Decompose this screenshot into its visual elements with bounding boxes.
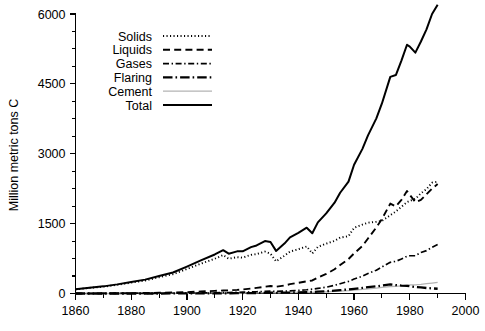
legend-label-gases: Gases bbox=[116, 57, 152, 71]
legend-label-solids: Solids bbox=[118, 30, 152, 44]
x-tick-label: 1940 bbox=[284, 304, 312, 318]
x-tick-label: 1860 bbox=[62, 304, 90, 318]
legend-label-total: Total bbox=[126, 99, 152, 113]
y-tick-label: 6000 bbox=[38, 8, 66, 22]
y-tick-label: 3000 bbox=[38, 147, 66, 161]
y-tick-label: 0 bbox=[59, 287, 66, 301]
y-tick-label: 4500 bbox=[38, 77, 66, 91]
x-tick-label: 1880 bbox=[117, 304, 145, 318]
x-tick-label: 1960 bbox=[340, 304, 368, 318]
x-tick-label: 1920 bbox=[229, 304, 257, 318]
emissions-line-chart: 0150030004500600018601880190019201940196… bbox=[0, 0, 485, 331]
x-tick-label: 2000 bbox=[452, 304, 480, 318]
x-tick-label: 1900 bbox=[173, 304, 201, 318]
y-tick-label: 1500 bbox=[38, 217, 66, 231]
legend-label-liquids: Liquids bbox=[112, 43, 152, 57]
x-tick-label: 1980 bbox=[396, 304, 424, 318]
chart-container: 0150030004500600018601880190019201940196… bbox=[0, 0, 485, 331]
legend-label-flaring: Flaring bbox=[114, 71, 152, 85]
legend-label-cement: Cement bbox=[108, 85, 152, 99]
y-axis-title: Million metric tons C bbox=[7, 99, 21, 212]
